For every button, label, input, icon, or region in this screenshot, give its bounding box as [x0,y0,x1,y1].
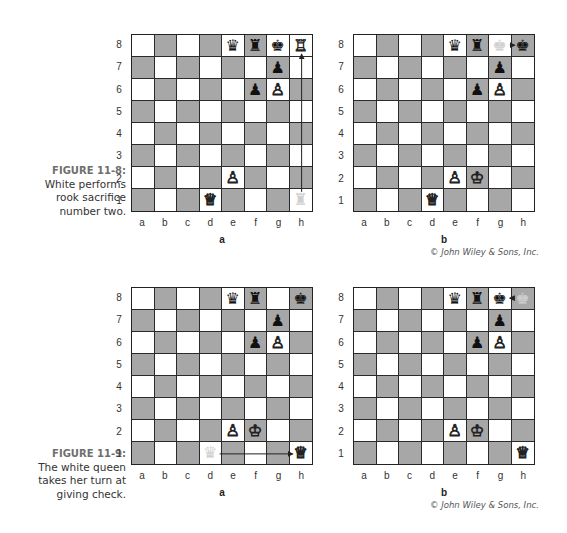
black-pawn-icon: ♟ [493,60,507,76]
square-d5 [200,101,223,123]
file-label: h [512,217,534,228]
file-label: d [199,470,221,481]
square-e8: ♛ [222,35,245,57]
rank-label: 4 [335,128,347,139]
square-g3 [267,145,290,167]
square-g3 [489,145,512,167]
square-h4 [290,123,313,145]
square-e5 [444,354,467,376]
square-a7 [132,310,155,332]
rank-label: 7 [335,61,347,72]
square-c5 [177,101,200,123]
square-e1 [444,189,467,211]
figure-11-9-caption: FIGURE 11-9: The white queen takes her t… [6,447,126,501]
rank-label: 4 [113,128,125,139]
square-c5 [399,354,422,376]
square-b8 [377,288,400,310]
black-pawn-icon: ♟ [470,335,484,351]
file-label: c [177,217,199,228]
square-g6: ♙ [489,79,512,101]
square-b7 [377,310,400,332]
figure-11-8-caption: FIGURE 11-8: White performs rook sacrifi… [6,164,126,218]
rank-label: 2 [113,173,125,184]
square-a6 [132,332,155,354]
square-g4 [489,376,512,398]
square-a4 [354,376,377,398]
square-g2 [489,167,512,189]
square-b5 [155,101,178,123]
file-label: f [245,217,267,228]
square-c3 [399,145,422,167]
white-queen-icon: ♕ [294,445,308,461]
square-g4 [267,123,290,145]
square-c2 [399,420,422,442]
square-a5 [354,354,377,376]
square-e7 [222,57,245,79]
square-a1 [354,189,377,211]
square-d4 [422,123,445,145]
square-f8: ♜ [245,35,268,57]
rank-label: 8 [335,39,347,50]
square-e3 [444,145,467,167]
square-c6 [177,79,200,101]
file-label: g [268,217,290,228]
square-h5 [290,354,313,376]
file-label: a [353,217,375,228]
white-queen-icon: ♕ [203,192,217,208]
square-f1 [467,442,490,464]
square-a2 [132,167,155,189]
rank-label: 2 [335,173,347,184]
square-f8: ♜ [245,288,268,310]
square-a8 [354,288,377,310]
board-label: a [211,234,233,245]
square-g5 [267,354,290,376]
square-d1: ♕ [200,189,223,211]
black-queen-icon: ♛ [226,38,240,54]
file-label: b [376,217,398,228]
square-c6 [399,332,422,354]
square-b7 [377,57,400,79]
square-f7 [467,57,490,79]
file-label: e [222,217,244,228]
file-label: e [444,470,466,481]
square-g5 [489,354,512,376]
black-pawn-icon: ♟ [493,313,507,329]
square-f7 [245,310,268,332]
rank-label: 6 [113,337,125,348]
square-c8 [399,35,422,57]
square-b2 [155,167,178,189]
white-king-icon: ♔ [248,423,262,439]
square-f8: ♜ [467,35,490,57]
white-pawn-icon: ♙ [271,82,285,98]
square-a2 [354,167,377,189]
file-label: b [154,470,176,481]
square-e5 [222,101,245,123]
square-d5 [200,354,223,376]
square-d4 [200,123,223,145]
square-h8: ♚ [512,35,535,57]
square-h2 [290,167,313,189]
file-label: a [131,217,153,228]
rank-label: 4 [335,381,347,392]
square-b4 [377,123,400,145]
caption-line: takes her turn at [38,474,126,486]
board-label: a [211,487,233,498]
square-d2 [200,420,223,442]
square-a5 [354,101,377,123]
square-c4 [177,376,200,398]
square-c3 [177,398,200,420]
black-pawn-icon: ♟ [470,82,484,98]
square-f4 [245,123,268,145]
square-e6 [444,79,467,101]
file-label: c [399,217,421,228]
square-a3 [132,398,155,420]
square-e7 [222,310,245,332]
file-label: h [290,217,312,228]
square-b2 [155,420,178,442]
chessboard: ♛♜♚♖♟♟♙♙♕♜ [131,34,313,212]
square-f2: ♔ [467,420,490,442]
square-g7: ♟ [489,310,512,332]
square-d5 [422,354,445,376]
square-d6 [200,332,223,354]
square-c2 [399,167,422,189]
